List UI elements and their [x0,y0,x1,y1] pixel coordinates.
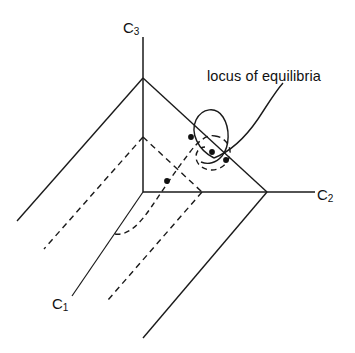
axis-label-c1-sub: 1 [63,302,69,313]
equilibrium-point [164,178,170,184]
axis-label-c2: C2 [317,186,333,204]
locus-loop [194,110,228,164]
axis-label-c2-main: C [317,186,328,203]
c1-axis-line [72,192,143,296]
equilibrium-point [188,134,194,140]
dashed-edge-inner-vertex-to-lower-left [108,192,202,300]
axis-label-c3-main: C [123,19,134,36]
axis-label-c1: C1 [52,295,68,313]
axis-label-c2-sub: 2 [328,193,334,204]
edge-apex-to-right-vertex [143,78,267,192]
equilibrium-point [223,157,229,163]
axis-label-c3: C3 [123,19,139,37]
edge-apex-to-left [17,78,143,221]
locus-of-equilibria-curve-group [194,83,283,163]
annotation-locus-of-equilibria: locus of equilibria [207,68,321,84]
dashed-edge-inner-apex-to-left [44,137,143,249]
axis-label-c3-sub: 3 [134,26,140,37]
dashed-trajectory-curve [115,136,215,235]
edge-right-vertex-to-lower-left [143,192,267,338]
axis-label-c1-main: C [52,295,63,312]
equilibrium-point [209,149,215,155]
figure-container: C3 C2 C1 locus of equilibria [0,0,355,353]
dashed-edge-inner-apex-to-inner-vertex [143,137,202,192]
simplex-dashed-edges [44,137,202,300]
